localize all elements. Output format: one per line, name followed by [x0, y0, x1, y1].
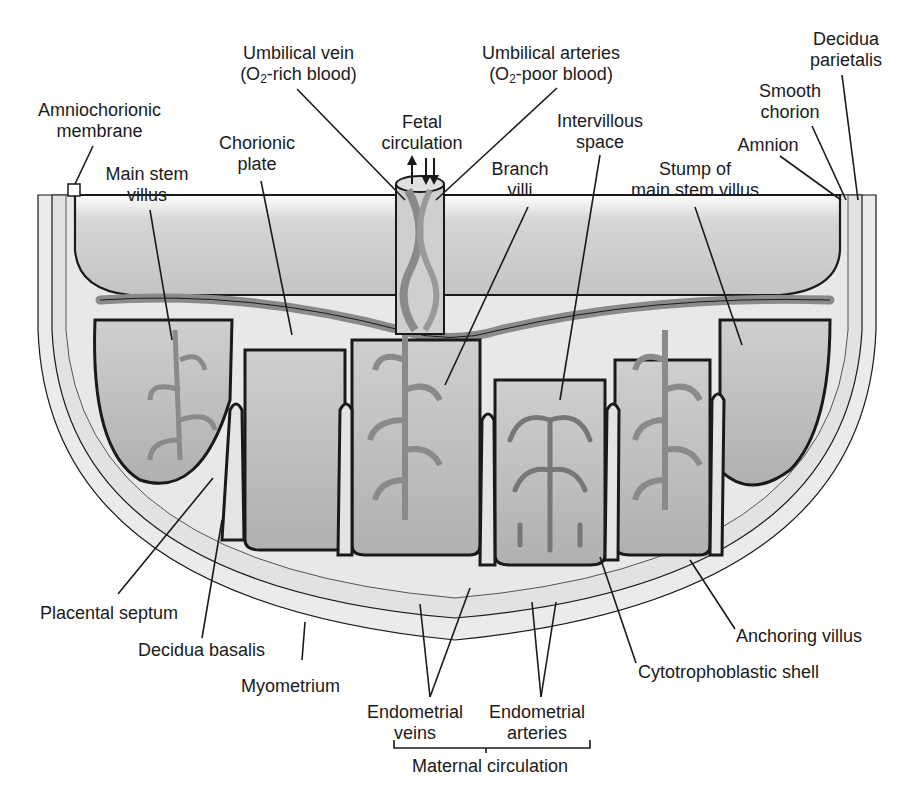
label-decidua-basalis: Decidua basalis — [138, 640, 265, 661]
label-endometrial-veins: Endometrial veins — [360, 702, 470, 744]
label-anchoring-villus: Anchoring villus — [736, 626, 862, 647]
label-maternal-circulation: Maternal circulation — [390, 756, 590, 777]
label-decidua-parietalis: Decidua parietalis — [796, 29, 896, 71]
label-amnion: Amnion — [728, 135, 808, 156]
label-intervillous-space: Intervillous space — [545, 111, 655, 153]
label-placental-septum: Placental septum — [40, 603, 178, 624]
amniochorionic-marker — [68, 184, 80, 196]
cotyledon-2 — [245, 350, 345, 550]
label-fetal-circulation: Fetal circulation — [372, 112, 472, 154]
label-myometrium: Myometrium — [241, 676, 340, 697]
label-endometrial-arteries: Endometrial arteries — [482, 702, 592, 744]
label-umbilical-vein: Umbilical vein (O2-rich blood) — [226, 43, 371, 85]
label-stump-of-main-stem-villus: Stump of main stem villus — [610, 159, 780, 201]
amniotic-cavity — [75, 195, 840, 295]
label-umbilical-arteries: Umbilical arteries (O2-poor blood) — [466, 43, 636, 85]
label-amniochorionic-membrane: Amniochorionic membrane — [32, 100, 167, 142]
label-chorionic-plate: Chorionic plate — [207, 133, 307, 175]
umbilical-cord — [396, 158, 444, 334]
label-main-stem-villus: Main stem villus — [92, 164, 202, 206]
label-branch-villi: Branch villi — [480, 159, 560, 201]
label-cytotrophoblastic-shell: Cytotrophoblastic shell — [638, 662, 819, 683]
label-smooth-chorion: Smooth chorion — [740, 81, 840, 123]
